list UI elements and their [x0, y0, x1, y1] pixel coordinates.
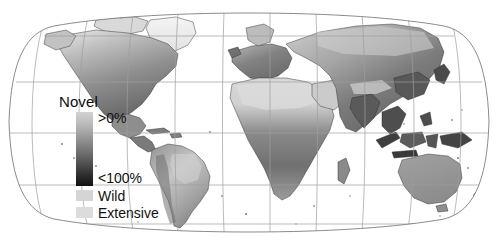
region-sulawesi — [426, 134, 438, 148]
map-interior — [0, 0, 500, 244]
world-map-svg — [0, 0, 500, 244]
world-map-figure: Novel >0% <100% Wild Extensive — [0, 0, 500, 244]
map-canvas — [0, 0, 500, 244]
region-hispaniola — [170, 133, 182, 138]
